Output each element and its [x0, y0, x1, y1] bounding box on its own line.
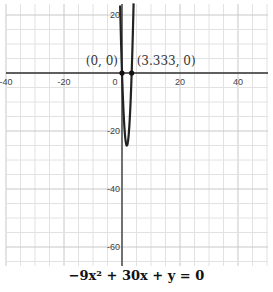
svg-text:-20: -20	[57, 77, 70, 87]
svg-text:40: 40	[233, 77, 243, 87]
svg-text:-20: -20	[107, 126, 120, 136]
grid-lines	[6, 4, 268, 266]
svg-text:20: 20	[175, 77, 185, 87]
svg-text:0: 0	[112, 77, 117, 87]
equation-caption: −9x² + 30x + y = 0	[0, 268, 273, 283]
svg-text:20: 20	[110, 10, 120, 20]
equation-text: −9x² + 30x + y = 0	[69, 268, 205, 283]
svg-text:-40: -40	[107, 184, 120, 194]
svg-text:(0, 0): (0, 0)	[86, 54, 118, 68]
svg-text:-60: -60	[107, 242, 120, 252]
svg-text:-40: -40	[0, 77, 13, 87]
svg-text:(3.333, 0): (3.333, 0)	[137, 54, 196, 68]
graph-plot: -40-200204020-20-40-60 (0, 0)(3.333, 0)	[0, 0, 273, 268]
